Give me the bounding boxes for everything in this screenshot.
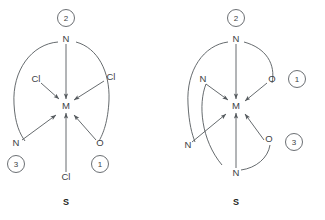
coordination-diagrams-svg: N Cl Cl N O Cl M 2 3 1 S xyxy=(0,0,325,220)
bond-lower-right-o-to-m xyxy=(74,115,96,140)
right-atom-lower-right-o: O xyxy=(265,133,272,144)
left-priority-number-3: 3 xyxy=(14,160,19,169)
left-atom-upper-left-cl: Cl xyxy=(32,73,41,84)
right-priority-number-3: 3 xyxy=(292,138,297,147)
right-priority-number-2: 2 xyxy=(234,14,239,23)
right-atom-upper-left-n: N xyxy=(200,73,207,84)
right-bond-upper-right-o-to-m xyxy=(245,83,267,101)
right-arc-upper-left-n-to-bottom-n xyxy=(202,84,222,165)
left-atom-lower-left-n: N xyxy=(13,137,20,148)
left-priority-number-1: 1 xyxy=(98,160,103,169)
right-atom-upper-right-o: O xyxy=(268,73,275,84)
right-priority-number-1: 1 xyxy=(295,75,300,84)
chirality-figure: N Cl Cl N O Cl M 2 3 1 S xyxy=(0,0,325,220)
bond-upper-right-cl-to-m xyxy=(74,81,104,100)
left-atom-lower-right-o: O xyxy=(96,137,103,148)
left-atom-upper-right-cl: Cl xyxy=(107,71,116,82)
right-atom-bottom-n: N xyxy=(233,167,240,178)
right-bond-lower-left-n-to-m xyxy=(192,114,226,142)
left-caption-s: S xyxy=(63,197,69,207)
right-caption-s: S xyxy=(233,197,239,207)
right-arc-top-n-to-lower-left-n xyxy=(188,42,228,142)
right-diagram: N N O N O N M 2 1 3 S xyxy=(185,10,306,208)
right-atom-center-m: M xyxy=(232,100,240,111)
right-bond-lower-right-o-to-m xyxy=(245,114,264,140)
left-atom-center-m: M xyxy=(62,100,70,111)
bond-upper-left-cl-to-m xyxy=(41,83,59,99)
arc-top-n-to-lower-left-n xyxy=(14,42,58,141)
right-atom-lower-left-n: N xyxy=(185,139,192,150)
arc-top-n-to-lower-right-o xyxy=(76,42,109,141)
bond-lower-left-n-to-m xyxy=(22,115,56,140)
left-atom-bottom-cl: Cl xyxy=(62,171,71,182)
right-atom-top-n: N xyxy=(233,33,240,44)
left-diagram: N Cl Cl N O Cl M 2 3 1 S xyxy=(8,10,116,208)
right-bond-upper-left-n-to-m xyxy=(206,84,228,100)
left-atom-top-n: N xyxy=(63,33,70,44)
left-priority-number-2: 2 xyxy=(64,14,69,23)
right-arc-lower-right-o-to-bottom-n xyxy=(241,145,270,170)
